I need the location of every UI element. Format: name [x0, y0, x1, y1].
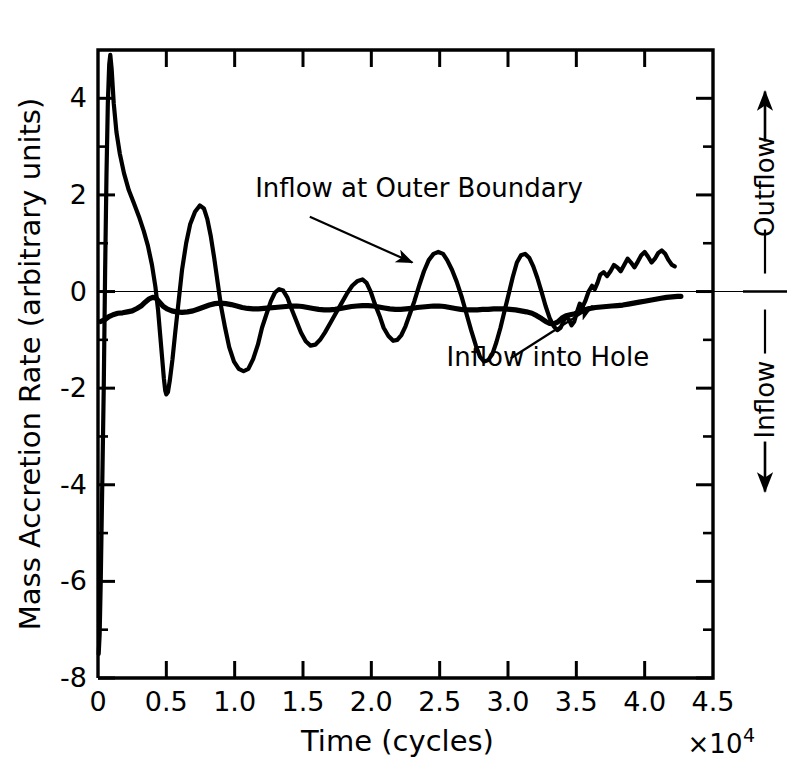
x-tick-label: 4.5	[692, 686, 735, 717]
x-tick-label: 2.0	[350, 686, 393, 717]
accretion-rate-chart: 420-2-4-6-800.51.01.52.02.53.03.54.04.5I…	[0, 0, 787, 766]
x-tick-label: 4.0	[623, 686, 666, 717]
inflow-label: Inflow	[750, 361, 780, 439]
y-tick-label: 0	[70, 276, 87, 307]
y-axis-title: Mass Accretion Rate (arbitrary units)	[13, 98, 47, 631]
series-line-into-hole	[101, 296, 681, 324]
x-tick-label: 1.0	[213, 686, 256, 717]
x-tick-label: 3.0	[487, 686, 530, 717]
x-axis-title: Time (cycles)	[300, 724, 494, 758]
x-tick-label: 2.5	[418, 686, 461, 717]
x-tick-label: 0	[89, 686, 106, 717]
annotation-arrow-inflow-at-outer-boundary	[310, 217, 413, 263]
annotation-label-inflow-at-outer-boundary: Inflow at Outer Boundary	[255, 173, 583, 203]
x-axis-multiplier: ×104	[688, 724, 755, 759]
y-tick-label: -2	[60, 372, 87, 403]
x-tick-label: 3.5	[555, 686, 598, 717]
x-multiplier-base: ×10	[688, 729, 743, 759]
figure-panel: 420-2-4-6-800.51.01.52.02.53.03.54.04.5I…	[0, 0, 787, 766]
y-tick-label: 4	[70, 82, 87, 113]
y-tick-label: -4	[60, 469, 87, 500]
flow-direction-annotation: OutflowInflow	[743, 92, 787, 492]
y-tick-label: 2	[70, 179, 87, 210]
outflow-label: Outflow	[750, 136, 780, 237]
x-axis: 00.51.01.52.02.53.03.54.04.5	[89, 50, 734, 717]
x-multiplier-exponent: 4	[743, 724, 755, 746]
x-tick-label: 1.5	[282, 686, 325, 717]
y-tick-label: -8	[60, 662, 87, 693]
x-tick-label: 0.5	[145, 686, 188, 717]
annotation-label-inflow-into-hole: Inflow into Hole	[447, 342, 650, 372]
annotation-inflow-at-outer-boundary: Inflow at Outer Boundary	[255, 173, 583, 262]
y-tick-label: -6	[60, 565, 87, 596]
